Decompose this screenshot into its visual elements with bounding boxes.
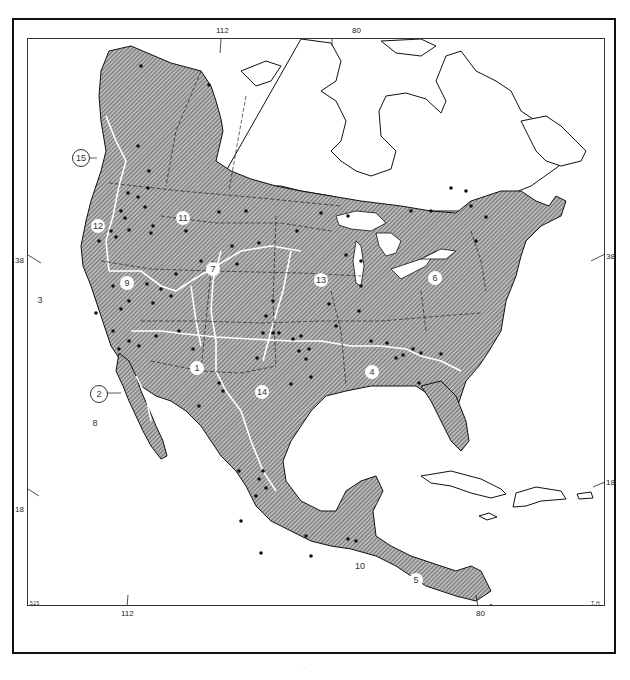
region-label-10: 10: [353, 559, 367, 573]
region-label-13: 13: [314, 273, 328, 287]
region-label-1: 1: [190, 361, 204, 375]
region-label-11: 11: [176, 211, 190, 225]
region-label-6: 6: [428, 271, 442, 285]
region-label-3: 3: [33, 293, 47, 307]
arctic-canada-outline: [226, 39, 586, 211]
region-label-4: 4: [365, 365, 379, 379]
footer-mark: · ·: [300, 664, 306, 670]
map-inner-frame: 1 2 3 4 5 6 7 8 9 10 11 12 13 14 15 0 60…: [27, 38, 605, 606]
region-label-9: 9: [120, 276, 134, 290]
latitude-label-right-38: 38: [606, 252, 615, 261]
region-label-12: 12: [91, 219, 105, 233]
longitude-label-top-80: 80: [352, 26, 361, 35]
caribbean-islands: [421, 471, 593, 520]
longitude-label-top-112: 112: [216, 26, 229, 35]
region-label-15: 15: [72, 149, 90, 167]
region-label-2: 2: [90, 385, 108, 403]
region-label-7: 7: [206, 262, 220, 276]
longitude-label-bottom-80: 80: [476, 609, 485, 618]
region-label-5: 5: [409, 573, 423, 587]
latitude-label-right-18: 18: [606, 478, 615, 487]
latitude-label-left-38: 38: [15, 256, 24, 265]
corner-mark-bottom-right: T.H: [591, 600, 600, 606]
latitude-label-left-18: 18: [15, 505, 24, 514]
corner-mark-bottom-left: 525: [30, 600, 40, 606]
map-canvas: [28, 39, 605, 606]
region-label-14: 14: [255, 385, 269, 399]
longitude-label-bottom-112: 112: [121, 609, 134, 618]
region-label-8: 8: [88, 416, 102, 430]
